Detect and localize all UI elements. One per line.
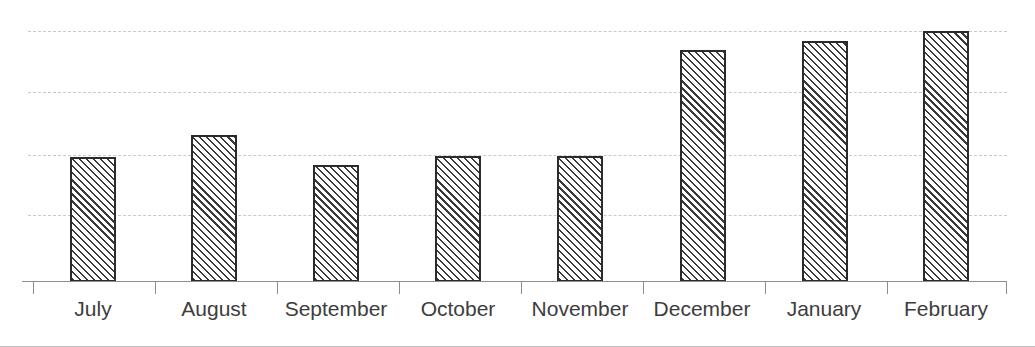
bars-group bbox=[28, 8, 1007, 282]
axis-tick bbox=[643, 282, 644, 294]
axis-tick bbox=[1006, 282, 1007, 294]
axis-tick bbox=[765, 282, 766, 294]
bar bbox=[923, 31, 969, 282]
bar bbox=[557, 156, 603, 282]
axis-tick bbox=[277, 282, 278, 294]
x-axis-labels: JulyAugustSeptemberOctoberNovemberDecemb… bbox=[0, 296, 1035, 336]
axis-tick bbox=[399, 282, 400, 294]
category-label: February bbox=[861, 296, 1031, 322]
axis-tick bbox=[521, 282, 522, 294]
bar bbox=[680, 50, 726, 282]
plot-area bbox=[28, 8, 1007, 282]
bar bbox=[435, 156, 481, 282]
axis-tick bbox=[887, 282, 888, 294]
x-axis-line bbox=[22, 281, 1007, 282]
axis-tick bbox=[33, 282, 34, 294]
axis-tick bbox=[155, 282, 156, 294]
bar bbox=[802, 41, 848, 282]
bar bbox=[313, 165, 359, 282]
bar-chart: JulyAugustSeptemberOctoberNovemberDecemb… bbox=[0, 0, 1035, 347]
bar bbox=[70, 157, 116, 282]
bar bbox=[191, 135, 237, 282]
